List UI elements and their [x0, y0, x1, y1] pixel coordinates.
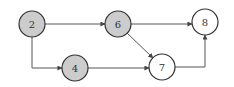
node-label: 2: [29, 19, 35, 30]
node-8: 8: [192, 9, 218, 35]
edge-7-to-8: [175, 35, 205, 67]
node-6: 6: [105, 11, 131, 37]
node-label: 7: [159, 62, 165, 73]
edge-2-to-4: [32, 37, 62, 68]
node-label: 4: [72, 63, 78, 74]
node-7: 7: [149, 54, 175, 80]
node-label: 8: [202, 17, 208, 28]
edge-6-to-7: [127, 33, 153, 58]
node-label: 6: [115, 19, 121, 30]
nodes-layer: 26847: [19, 9, 218, 81]
graph-diagram: 26847: [0, 0, 234, 87]
node-4: 4: [62, 55, 88, 81]
node-2: 2: [19, 11, 45, 37]
